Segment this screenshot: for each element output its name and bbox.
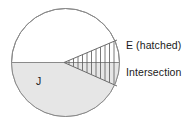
set-j-label: J: [36, 75, 41, 87]
diagram-canvas: [0, 0, 188, 127]
intersection-label: Intersection: [126, 66, 181, 78]
set-diagram-figure: J E (hatched) Intersection: [0, 0, 188, 127]
set-e-label: E (hatched): [126, 39, 181, 51]
